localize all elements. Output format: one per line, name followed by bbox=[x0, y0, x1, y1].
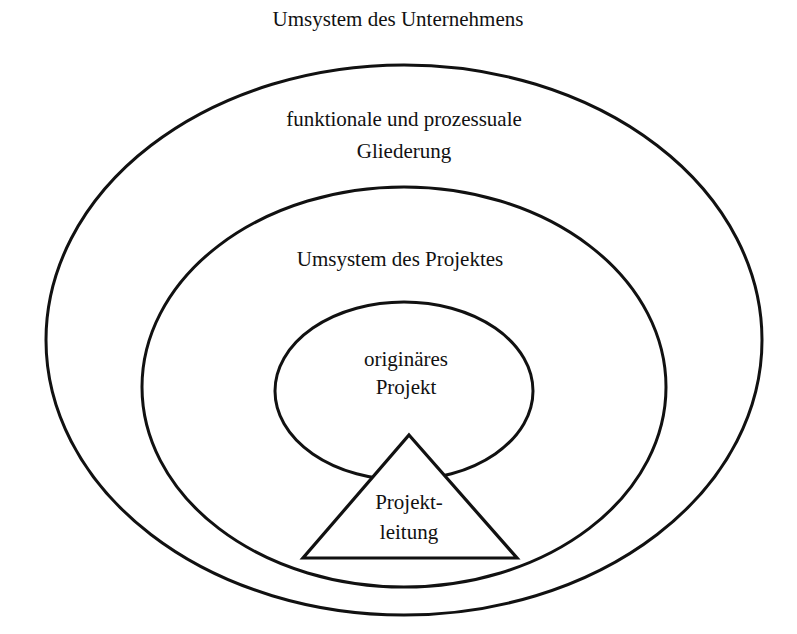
label-functional-process-line2: Gliederung bbox=[286, 135, 522, 167]
label-original-project-line1: originäres bbox=[364, 345, 448, 373]
label-functional-process-structure: funktionale und prozessuale Gliederung bbox=[286, 103, 522, 167]
label-functional-process-line1: funktionale und prozessuale bbox=[286, 103, 522, 135]
label-company-environment-text: Umsystem des Unternehmens bbox=[273, 7, 524, 31]
label-original-project-line2: Projekt bbox=[364, 373, 448, 401]
label-project-leadership-line1: Projekt- bbox=[375, 487, 443, 517]
label-original-project: originäres Projekt bbox=[364, 345, 448, 401]
label-project-environment: Umsystem des Projektes bbox=[297, 247, 503, 272]
label-project-environment-text: Umsystem des Projektes bbox=[297, 247, 503, 271]
label-company-environment: Umsystem des Unternehmens bbox=[273, 7, 524, 32]
label-project-leadership-line2: leitung bbox=[375, 517, 443, 547]
label-project-leadership: Projekt- leitung bbox=[375, 487, 443, 547]
